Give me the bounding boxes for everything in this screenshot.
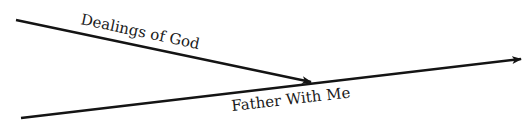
father-with-me-label: Father With Me	[230, 84, 351, 115]
arrow-diagram: Dealings of God Father With Me	[0, 0, 531, 128]
diagram-canvas: Dealings of God Father With Me	[0, 0, 531, 128]
